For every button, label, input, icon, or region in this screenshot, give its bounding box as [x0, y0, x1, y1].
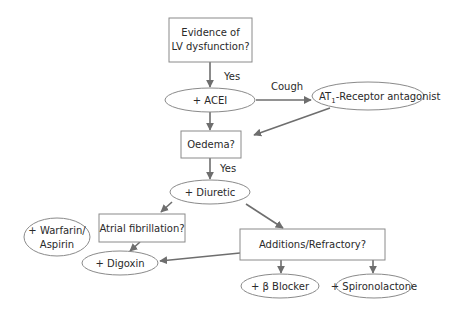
node-digoxin: + Digoxin — [82, 251, 158, 275]
edge-diuretic-to-atrial-fib — [161, 202, 172, 212]
node-oedema-label: Oedema? — [187, 139, 235, 150]
node-warfarin-line2: Aspirin — [40, 239, 74, 250]
node-oedema: Oedema? — [181, 131, 241, 158]
node-atrial-fibrillation: Atrial fibrillation? — [99, 214, 185, 242]
node-diuretic-label: + Diuretic — [185, 187, 236, 198]
edge-at1-to-oedema — [254, 108, 330, 135]
node-beta-blocker: + β Blocker — [241, 274, 319, 298]
node-lv-dysfunction: Evidence of LV dysfunction? — [169, 18, 252, 62]
node-atrial-fib-label: Atrial fibrillation? — [99, 223, 184, 234]
node-digoxin-label: + Digoxin — [95, 258, 144, 269]
edge-additions-to-digoxin — [160, 253, 240, 261]
node-warfarin-aspirin: + Warfarin/ Aspirin — [24, 218, 90, 256]
flowchart: Yes Cough Yes Evidence of LV dysfunction… — [0, 0, 451, 312]
node-diuretic: + Diuretic — [170, 180, 250, 204]
node-warfarin-line1: + Warfarin/ — [28, 225, 86, 236]
node-spironolactone-label: + Spironolactone — [331, 281, 417, 292]
node-lv-dysfunction-line1: Evidence of — [181, 27, 240, 38]
node-acei-label: + ACEI — [193, 95, 227, 106]
node-at1-receptor-antagonist: AT1-Receptor antagonist — [312, 82, 441, 110]
node-beta-blocker-label: + β Blocker — [251, 281, 310, 292]
node-acei: + ACEI — [165, 88, 255, 112]
edge-diuretic-to-additions — [246, 204, 283, 228]
edge-atrial-fib-to-digoxin — [130, 242, 140, 251]
node-spironolactone: + Spironolactone — [331, 274, 417, 298]
node-lv-dysfunction-line2: LV dysfunction? — [171, 41, 249, 52]
edge-label-yes-2: Yes — [219, 163, 236, 174]
node-additions-label: Additions/Refractory? — [259, 239, 366, 250]
node-additions-refractory: Additions/Refractory? — [240, 229, 385, 260]
edge-label-yes-1: Yes — [223, 71, 240, 82]
edge-label-cough: Cough — [271, 81, 303, 92]
